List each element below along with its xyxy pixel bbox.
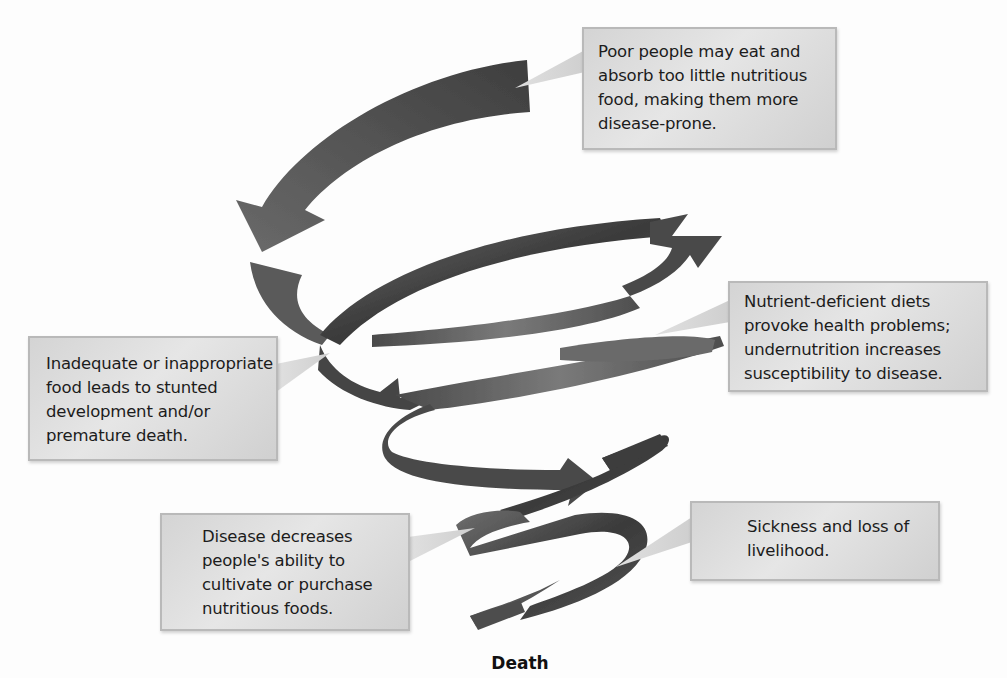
callout-text: Nutrient-deficient diets provoke health … [744, 290, 984, 386]
callout-text: Inadequate or inappropriate food leads t… [46, 352, 276, 448]
callout-poor-nutrition: Poor people may eat and absorb too littl… [582, 27, 837, 150]
callout-sickness: Sickness and loss of livelihood. [690, 501, 940, 581]
pointer-bottom-left [408, 528, 475, 562]
callout-disease-decreases: Disease decreases people's ability to cu… [160, 513, 410, 631]
spiral-diagram: Poor people may eat and absorb too littl… [0, 0, 1007, 678]
callout-inadequate-food: Inadequate or inappropriate food leads t… [28, 336, 278, 461]
callout-text: Sickness and loss of livelihood. [747, 515, 937, 563]
arrow-loop-4 [456, 511, 647, 630]
arrow-loop-2 [318, 336, 724, 410]
arrow-top-arc [236, 60, 530, 252]
arrow-loop-3 [382, 404, 669, 520]
pointer-right [655, 300, 730, 335]
callout-nutrient-deficient: Nutrient-deficient diets provoke health … [728, 281, 988, 392]
end-label-death: Death [470, 653, 570, 673]
callout-text: Poor people may eat and absorb too littl… [598, 40, 833, 136]
callout-text: Disease decreases people's ability to cu… [202, 525, 407, 621]
arrow-loop-1 [250, 214, 722, 347]
